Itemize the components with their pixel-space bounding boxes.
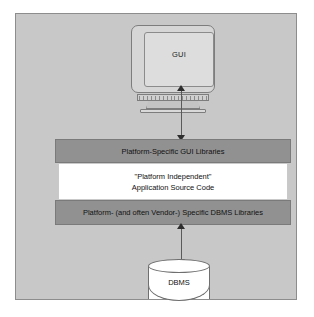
layer-application-source-line1: "Platform Independent" — [134, 171, 211, 182]
database-node: DBMS — [148, 259, 210, 306]
vent-slot — [202, 96, 203, 100]
vent-slot — [139, 96, 140, 100]
vent-slot — [147, 96, 148, 100]
layer-gui-libraries: Platform-Specific GUI Libraries — [55, 139, 291, 163]
vent-slot — [167, 96, 168, 100]
vent-slot — [159, 96, 160, 100]
vent-slot — [190, 96, 191, 100]
connector-libraries-to-database — [176, 224, 187, 264]
vent-slot — [143, 96, 144, 100]
diagram-canvas: GUI Pl — [0, 0, 314, 317]
layer-dbms-libraries-label: Platform- (and often Vendor-) Specific D… — [83, 208, 263, 217]
connector-gui-to-libraries — [176, 86, 187, 140]
monitor-bezel: GUI — [131, 25, 215, 93]
connector-line — [181, 86, 182, 140]
vent-slot — [155, 96, 156, 100]
cylinder-top-ellipse — [148, 259, 210, 273]
arrowhead-up-icon — [177, 223, 185, 229]
monitor-base — [140, 109, 206, 113]
vent-slot — [206, 96, 207, 100]
gui-label: GUI — [172, 50, 186, 59]
layer-application-source: "Platform Independent" Application Sourc… — [58, 163, 288, 200]
vent-slot — [171, 96, 172, 100]
vent-slot — [163, 96, 164, 100]
vent-slot — [151, 96, 152, 100]
vent-slot — [198, 96, 199, 100]
diagram-frame: GUI Pl — [15, 13, 297, 300]
monitor-stand — [146, 101, 200, 109]
layer-application-source-line2: Application Source Code — [132, 182, 215, 193]
vent-slot — [194, 96, 195, 100]
database-label: DBMS — [148, 278, 210, 287]
arrowhead-up-icon — [177, 85, 185, 91]
gui-monitor-node: GUI — [126, 25, 220, 121]
layer-dbms-libraries: Platform- (and often Vendor-) Specific D… — [55, 200, 291, 225]
monitor-screen: GUI — [144, 32, 214, 87]
layer-gui-libraries-label: Platform-Specific GUI Libraries — [122, 147, 225, 156]
layer-stack: Platform-Specific GUI Libraries "Platfor… — [55, 139, 291, 225]
connector-line — [181, 224, 182, 264]
monitor-vent-strip — [137, 94, 209, 101]
